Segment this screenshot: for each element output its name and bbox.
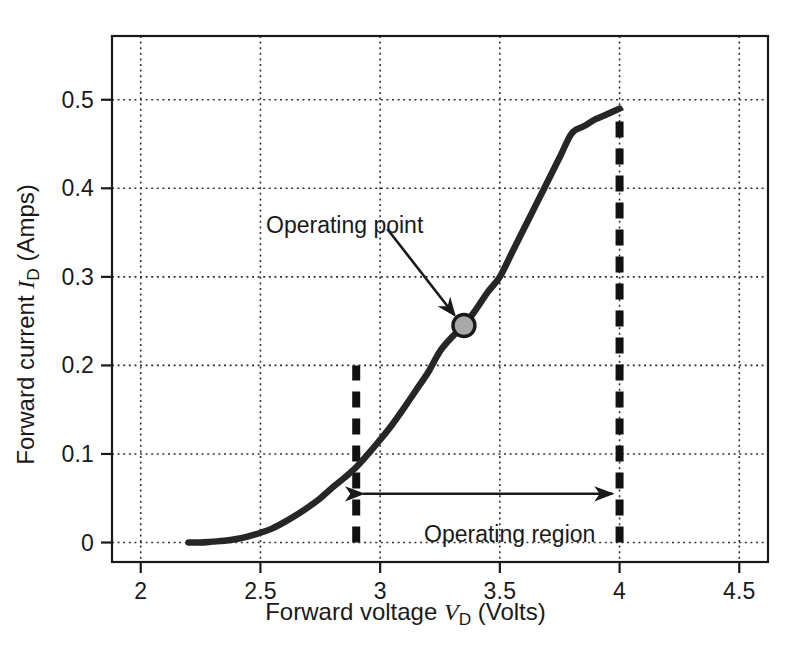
diode-iv-characteristic-figure: 00.10.20.30.40.5 22.533.544.5 Forward cu… <box>0 0 811 649</box>
operating-point-label: Operating point <box>266 212 423 239</box>
x-axis-title: Forward voltage VD (Volts) <box>0 598 811 630</box>
operating-point-marker <box>453 315 475 337</box>
y-axis-title: Forward current ID (Amps) <box>12 0 52 649</box>
iv-curve <box>189 109 620 543</box>
operating-region-label: Operating region <box>424 521 595 548</box>
axis-symbol-subscript: D <box>459 609 471 629</box>
plot-canvas <box>0 0 811 649</box>
operating-point-dot <box>453 315 475 337</box>
iv-curve-path <box>189 109 620 543</box>
axis-symbol: V <box>444 599 459 625</box>
gridlines <box>112 36 768 562</box>
axis-symbol-subscript: D <box>23 268 43 280</box>
operating-point-arrow <box>387 229 454 315</box>
axis-ticks <box>101 100 739 573</box>
plot-frame <box>112 36 768 562</box>
operating-region-guides <box>356 109 619 543</box>
plot-border <box>112 36 768 562</box>
axis-symbol: I <box>13 281 39 289</box>
